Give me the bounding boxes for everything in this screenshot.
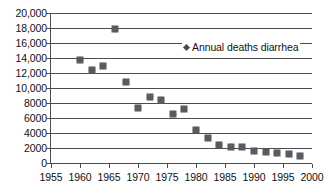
legend: Annual deaths diarrhea: [182, 41, 300, 54]
data-point-marker: [262, 148, 269, 155]
data-point-marker: [297, 153, 304, 160]
gridline-horizontal: [51, 58, 312, 59]
data-point-marker: [216, 141, 223, 148]
y-axis-tick-label: 12,000: [0, 68, 47, 79]
x-axis-tick-label: 1970: [127, 172, 150, 183]
x-axis-tick-label: 1955: [40, 172, 63, 183]
data-point-marker: [88, 66, 95, 73]
y-axis-tick-label: 14,000: [0, 53, 47, 64]
x-axis-tick: [312, 164, 313, 168]
data-point-marker: [204, 134, 211, 141]
x-axis-tick-label: 1985: [214, 172, 237, 183]
y-axis-tick: [46, 133, 51, 134]
x-axis-tick-label: 2000: [301, 172, 324, 183]
y-axis-tick-label: 8000: [0, 98, 47, 109]
data-point-marker: [134, 105, 141, 112]
gridline-horizontal: [51, 88, 312, 89]
legend-label: Annual deaths diarrhea: [192, 42, 298, 53]
x-axis-tick: [225, 164, 226, 168]
data-point-marker: [181, 105, 188, 112]
y-axis-tick: [46, 58, 51, 59]
y-axis-tick-label: 20,000: [0, 8, 47, 19]
y-axis-tick-label: 6000: [0, 113, 47, 124]
x-axis-tick-label: 1960: [69, 172, 92, 183]
x-axis-tick: [254, 164, 255, 168]
y-axis-tick: [46, 103, 51, 104]
gridline-horizontal: [51, 28, 312, 29]
x-axis-tick: [283, 164, 284, 168]
x-axis-tick: [167, 164, 168, 168]
data-point-marker: [169, 110, 176, 117]
gridline-horizontal: [51, 13, 312, 14]
y-axis-tick-label: 10,000: [0, 83, 47, 94]
y-axis-tick: [46, 118, 51, 119]
data-point-marker: [239, 144, 246, 151]
y-axis-tick: [46, 13, 51, 14]
gridline-horizontal: [51, 118, 312, 119]
data-point-marker: [123, 78, 130, 85]
x-axis-tick: [80, 164, 81, 168]
plot-area: [51, 13, 312, 163]
y-axis-tick: [46, 148, 51, 149]
gridline-horizontal: [51, 163, 312, 164]
y-axis-tick-label: 18,000: [0, 23, 47, 34]
data-point-marker: [274, 149, 281, 156]
data-point-marker: [111, 25, 118, 32]
y-axis-tick-label: 2000: [0, 143, 47, 154]
y-axis-labels: 0200040006000800010,00012,00014,00016,00…: [0, 0, 47, 193]
legend-diamond-icon: [183, 44, 190, 51]
y-axis-tick: [46, 73, 51, 74]
x-axis-tick: [196, 164, 197, 168]
data-point-marker: [158, 96, 165, 103]
data-point-marker: [285, 150, 292, 157]
gridline-horizontal: [51, 133, 312, 134]
chart-container: 0200040006000800010,00012,00014,00016,00…: [0, 0, 324, 193]
x-axis-tick-label: 1975: [156, 172, 179, 183]
data-point-marker: [227, 143, 234, 150]
data-point-marker: [76, 56, 83, 63]
y-axis-tick-label: 4000: [0, 128, 47, 139]
y-axis-tick: [46, 43, 51, 44]
y-axis-tick-label: 0: [0, 158, 47, 169]
data-point-marker: [192, 126, 199, 133]
gridline-horizontal: [51, 103, 312, 104]
x-axis-tick-label: 1990: [243, 172, 266, 183]
data-point-marker: [250, 147, 257, 154]
x-axis-tick: [109, 164, 110, 168]
y-axis-tick: [46, 88, 51, 89]
data-point-marker: [100, 62, 107, 69]
x-axis-tick: [51, 164, 52, 168]
data-point-marker: [146, 93, 153, 100]
x-axis-tick-label: 1995: [272, 172, 295, 183]
y-axis-tick: [46, 28, 51, 29]
x-axis-tick-label: 1965: [98, 172, 121, 183]
x-axis-tick-label: 1980: [185, 172, 208, 183]
y-axis-tick-label: 16,000: [0, 38, 47, 49]
x-axis-tick: [138, 164, 139, 168]
